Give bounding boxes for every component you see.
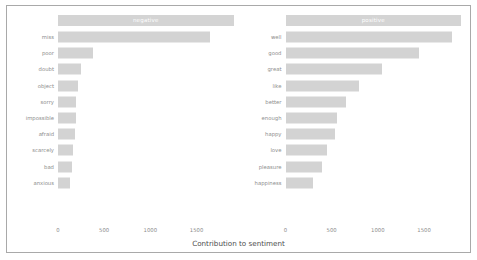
- bar: [286, 80, 360, 91]
- bar-track: [58, 110, 234, 126]
- bar-row: pleasure: [244, 159, 462, 175]
- bar: [286, 129, 336, 140]
- bar: [58, 80, 78, 91]
- bar: [58, 113, 76, 124]
- bar-category-label: doubt: [16, 66, 58, 72]
- bar-category-label: pleasure: [244, 164, 286, 170]
- x-axis-negative: 050010001500: [16, 223, 239, 239]
- bar-category-label: enough: [244, 115, 286, 121]
- bar-category-label: good: [244, 50, 286, 56]
- x-tick-label: 1500: [417, 227, 430, 233]
- bar: [58, 64, 81, 75]
- bar-row: scarcely: [16, 142, 234, 158]
- bar-row: anxious: [16, 175, 234, 191]
- bar-category-label: bad: [16, 164, 58, 170]
- bar-row: like: [244, 78, 462, 94]
- bar-row: enough: [244, 110, 462, 126]
- bar-category-label: afraid: [16, 131, 58, 137]
- x-tick-label: 1500: [190, 227, 203, 233]
- bar: [286, 96, 346, 107]
- bar-track: [58, 159, 234, 175]
- bar: [286, 113, 338, 124]
- bar-track: [286, 175, 462, 191]
- bar-row: afraid: [16, 126, 234, 142]
- bar-category-label: sorry: [16, 99, 58, 105]
- x-axis-title: Contribution to sentiment: [7, 239, 470, 254]
- bar-track: [58, 94, 234, 110]
- bar-track: [58, 142, 234, 158]
- bar-category-label: well: [244, 34, 286, 40]
- bar-row: impossible: [16, 110, 234, 126]
- x-axes: 050010001500 050010001500: [7, 223, 470, 239]
- facet-strip-positive: positive: [286, 15, 462, 26]
- bar-row: great: [244, 61, 462, 77]
- bar-track: [286, 142, 462, 158]
- bar: [286, 161, 323, 172]
- bar-track: [286, 78, 462, 94]
- bar-track: [286, 94, 462, 110]
- bar-row: sorry: [16, 94, 234, 110]
- bar-row: happy: [244, 126, 462, 142]
- bar-category-label: object: [16, 83, 58, 89]
- bar-row: love: [244, 142, 462, 158]
- bar-track: [286, 110, 462, 126]
- bar-category-label: better: [244, 99, 286, 105]
- bar-row: poor: [16, 45, 234, 61]
- axis-scale-negative: 050010001500: [58, 223, 234, 239]
- bar-track: [286, 159, 462, 175]
- facet-body-negative: miss poor doubt: [16, 26, 234, 223]
- x-tick-label: 0: [284, 227, 287, 233]
- bar: [286, 64, 383, 75]
- facet-panel-positive: positive well good: [239, 15, 462, 223]
- facet-body-positive: well good great: [244, 26, 462, 223]
- bar-row: doubt: [16, 61, 234, 77]
- bar-track: [58, 175, 234, 191]
- bar-row: miss: [16, 29, 234, 45]
- bar-category-label: poor: [16, 50, 58, 56]
- bar-track: [58, 78, 234, 94]
- bar: [58, 48, 93, 59]
- axis-scale-positive: 050010001500: [286, 223, 462, 239]
- bar-track: [286, 61, 462, 77]
- bar: [286, 177, 314, 188]
- bar-category-label: like: [244, 83, 286, 89]
- bar-category-label: miss: [16, 34, 58, 40]
- axis-spacer: [244, 223, 286, 239]
- axis-spacer: [16, 223, 58, 239]
- sentiment-contribution-figure: negative miss poor: [0, 0, 477, 260]
- bar: [286, 32, 452, 43]
- bar-row: good: [244, 45, 462, 61]
- bar-category-label: happiness: [244, 180, 286, 186]
- bar-category-label: impossible: [16, 115, 58, 121]
- bar: [58, 96, 76, 107]
- bar-track: [58, 61, 234, 77]
- plot-area: negative miss poor: [7, 6, 470, 254]
- bar-category-label: great: [244, 66, 286, 72]
- bar: [58, 145, 73, 156]
- facet-panels: negative miss poor: [7, 6, 470, 223]
- bar-category-label: anxious: [16, 180, 58, 186]
- bar: [286, 145, 328, 156]
- bar-row: happiness: [244, 175, 462, 191]
- facet-strip-negative: negative: [58, 15, 234, 26]
- facet-panel-negative: negative miss poor: [16, 15, 239, 223]
- bar-category-label: happy: [244, 131, 286, 137]
- x-tick-label: 0: [56, 227, 59, 233]
- x-tick-label: 1000: [371, 227, 384, 233]
- x-tick-label: 500: [327, 227, 337, 233]
- bar-track: [58, 45, 234, 61]
- bar-category-label: love: [244, 147, 286, 153]
- bar: [58, 177, 70, 188]
- bar-category-label: scarcely: [16, 147, 58, 153]
- bar: [286, 48, 420, 59]
- bar-track: [58, 29, 234, 45]
- bar: [58, 32, 210, 43]
- bar-row: bad: [16, 159, 234, 175]
- bar-track: [286, 126, 462, 142]
- bar-row: well: [244, 29, 462, 45]
- bar-row: object: [16, 78, 234, 94]
- bar-row: better: [244, 94, 462, 110]
- bar-track: [58, 126, 234, 142]
- x-tick-label: 1000: [144, 227, 157, 233]
- x-tick-label: 500: [99, 227, 109, 233]
